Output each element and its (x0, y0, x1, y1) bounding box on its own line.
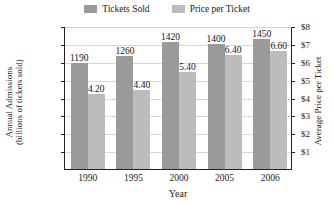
x-axis-title: Year (64, 188, 292, 199)
y-axis-left-tick (61, 99, 65, 100)
bar-value-price-per-ticket: 4.20 (83, 84, 110, 94)
x-axis-label: 1990 (65, 173, 111, 183)
y-axis-right-tick-label: $4 (301, 95, 331, 104)
y-axis-right-tick (291, 63, 295, 64)
y-axis-right-tick (291, 116, 295, 117)
bar-price-per-ticket (225, 55, 242, 169)
bar-value-tickets-sold: 1420 (157, 32, 184, 42)
x-axis-label: 2005 (202, 173, 248, 183)
y-axis-left-tick (61, 27, 65, 28)
bar-value-tickets-sold: 1450 (248, 29, 275, 39)
y-axis-right-tick (291, 152, 295, 153)
y-axis-right-tick-label: $2 (301, 130, 331, 139)
y-axis-left-tick (61, 63, 65, 64)
y-axis-right-tick-label: $7 (301, 41, 331, 50)
x-axis-label: 2000 (156, 173, 202, 183)
bar-value-price-per-ticket: 6.40 (220, 45, 247, 55)
plot-area: 1600140012001000800600400200 $8$7$6$5$4$… (64, 27, 292, 170)
legend-item-tickets-sold: Tickets Sold (84, 4, 149, 14)
bar-tickets-sold (162, 42, 179, 169)
y-axis-right-tick (291, 99, 295, 100)
y-axis-left-tick (61, 81, 65, 82)
bar-tickets-sold (116, 56, 133, 169)
legend-swatch-price-per-ticket (172, 5, 185, 13)
y-axis-right-tick-label: $5 (301, 77, 331, 86)
bar-price-per-ticket (133, 90, 150, 169)
gridline (65, 27, 291, 28)
bar-value-tickets-sold: 1190 (66, 53, 93, 63)
x-axis-label: 1995 (111, 173, 157, 183)
y-axis-right-tick (291, 81, 295, 82)
bar-value-price-per-ticket: 6.60 (265, 41, 292, 51)
bar-chart: Tickets Sold Price per Ticket Annual Adm… (0, 0, 334, 204)
bar-price-per-ticket (179, 72, 196, 169)
bar-price-per-ticket (270, 51, 287, 169)
y-axis-right-tick (291, 134, 295, 135)
bar-tickets-sold (71, 63, 88, 169)
bar-price-per-ticket (88, 94, 105, 169)
legend-swatch-tickets-sold (84, 5, 97, 13)
legend-label-tickets-sold: Tickets Sold (102, 4, 149, 14)
y-axis-right-tick-label: $6 (301, 59, 331, 68)
bar-value-price-per-ticket: 4.40 (128, 80, 155, 90)
y-axis-right-tick (291, 27, 295, 28)
y-axis-left-title: Annual Admissions (billions of tickets s… (4, 42, 24, 162)
y-axis-left-tick (61, 116, 65, 117)
x-axis-label: 2006 (247, 173, 293, 183)
bar-tickets-sold (253, 39, 270, 169)
y-axis-left-title-line2: (billions of tickets sold) (14, 42, 24, 162)
bar-value-price-per-ticket: 5.40 (174, 62, 201, 72)
legend-label-price-per-ticket: Price per Ticket (190, 4, 250, 14)
y-axis-right-tick-label: $8 (301, 23, 331, 32)
bar-value-tickets-sold: 1260 (111, 46, 138, 56)
y-axis-left-tick (61, 134, 65, 135)
legend-item-price-per-ticket: Price per Ticket (172, 4, 250, 14)
y-axis-left-tick (61, 45, 65, 46)
bar-tickets-sold (208, 44, 225, 169)
bar-value-tickets-sold: 1400 (203, 34, 230, 44)
chart-legend: Tickets Sold Price per Ticket (0, 2, 334, 16)
y-axis-right-tick-label: $1 (301, 148, 331, 157)
y-axis-left-tick (61, 152, 65, 153)
y-axis-left-title-line1: Annual Admissions (4, 42, 14, 162)
y-axis-right-tick-label: $3 (301, 112, 331, 121)
